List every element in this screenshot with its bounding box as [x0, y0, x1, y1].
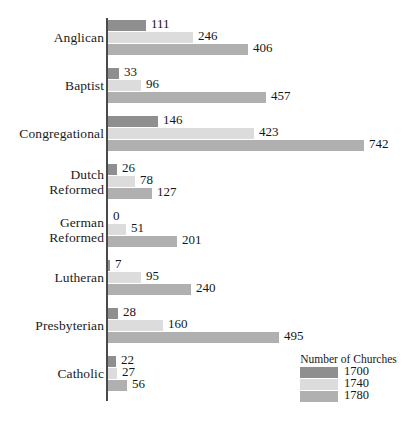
category-label: Baptist — [0, 79, 104, 94]
bar-row: 51 — [108, 224, 407, 235]
bar-value-label: 495 — [284, 329, 304, 342]
bar-1740 — [108, 128, 254, 139]
bar-1700 — [108, 260, 110, 271]
bar-1740 — [108, 224, 126, 235]
bar-group: Anglican111246406 — [0, 18, 407, 64]
category-label: Congregational — [0, 127, 104, 142]
bar-group: Baptist3396457 — [0, 66, 407, 112]
bar-row: 78 — [108, 176, 407, 187]
category-label-line: Lutheran — [0, 271, 104, 286]
bar-1780 — [108, 380, 127, 391]
bar-row: 240 — [108, 284, 407, 295]
category-label: GermanReformed — [0, 216, 104, 245]
bar-1700 — [108, 308, 118, 319]
bar-row: 495 — [108, 332, 407, 343]
bar-1700 — [108, 68, 119, 79]
bar-chart: Anglican111246406Baptist3396457Congregat… — [0, 0, 407, 425]
category-label: Lutheran — [0, 271, 104, 286]
category-label-line: Congregational — [0, 127, 104, 142]
category-label-line: German — [0, 216, 104, 231]
bar-1740 — [108, 272, 141, 283]
bar-1700 — [108, 356, 116, 367]
category-label-line: Presbyterian — [0, 319, 104, 334]
legend-entries: 170017401780 — [286, 367, 407, 402]
bar-value-label: 406 — [253, 41, 273, 54]
bar-value-label: 201 — [182, 233, 202, 246]
bar-row: 127 — [108, 188, 407, 199]
bar-value-label: 127 — [157, 185, 177, 198]
category-label-line: Baptist — [0, 79, 104, 94]
bar-1780 — [108, 236, 177, 247]
bar-row: 111 — [108, 20, 407, 31]
category-label-line: Catholic — [0, 367, 104, 382]
bar-row: 146 — [108, 116, 407, 127]
bar-value-label: 33 — [124, 65, 137, 78]
bar-1700 — [108, 20, 146, 31]
bar-value-label: 78 — [140, 173, 153, 186]
bar-row: 95 — [108, 272, 407, 283]
bar-row: 406 — [108, 44, 407, 55]
legend-swatch-1740 — [300, 379, 338, 390]
bar-group: GermanReformed051201 — [0, 210, 407, 256]
bar-row: 0 — [108, 212, 407, 223]
bar-value-label: 160 — [168, 317, 188, 330]
bar-row: 160 — [108, 320, 407, 331]
legend-swatch-1780 — [300, 391, 338, 402]
bar-1780 — [108, 140, 364, 151]
legend-label-1780: 1780 — [344, 389, 369, 402]
bar-group: DutchReformed2678127 — [0, 162, 407, 208]
bar-row: 28 — [108, 308, 407, 319]
bar-1740 — [108, 368, 117, 379]
bar-value-label: 95 — [146, 269, 159, 282]
category-label-line: Dutch — [0, 168, 104, 183]
bar-row: 201 — [108, 236, 407, 247]
bar-value-label: 96 — [146, 77, 159, 90]
bar-value-label: 240 — [196, 281, 216, 294]
bar-1780 — [108, 284, 191, 295]
legend-swatch-1700 — [300, 367, 338, 378]
bar-row: 423 — [108, 128, 407, 139]
bar-1740 — [108, 320, 163, 331]
category-label-line: Reformed — [0, 183, 104, 198]
bar-1780 — [108, 332, 279, 343]
category-label: Presbyterian — [0, 319, 104, 334]
bar-value-label: 26 — [122, 161, 135, 174]
bar-value-label: 111 — [151, 17, 170, 30]
bar-row: 96 — [108, 80, 407, 91]
bar-1780 — [108, 188, 152, 199]
bar-1780 — [108, 92, 266, 103]
bar-value-label: 457 — [271, 89, 291, 102]
bar-1780 — [108, 44, 248, 55]
category-label: DutchReformed — [0, 168, 104, 197]
bar-group: Presbyterian28160495 — [0, 306, 407, 352]
bar-value-label: 246 — [198, 29, 218, 42]
bar-row: 457 — [108, 92, 407, 103]
bar-value-label: 146 — [163, 113, 183, 126]
bar-value-label: 51 — [131, 221, 144, 234]
legend-entry: 1780 — [286, 391, 407, 402]
bar-group: Lutheran795240 — [0, 258, 407, 304]
bar-row: 742 — [108, 140, 407, 151]
bar-group: Congregational146423742 — [0, 114, 407, 160]
chart-legend: Number of Churches 170017401780 — [286, 353, 407, 403]
bar-value-label: 56 — [132, 377, 145, 390]
category-label-line: Reformed — [0, 231, 104, 246]
bar-value-label: 742 — [369, 137, 389, 150]
bar-value-label: 7 — [115, 257, 122, 270]
bar-1740 — [108, 176, 135, 187]
category-label: Anglican — [0, 31, 104, 46]
bar-1700 — [108, 116, 158, 127]
bar-1740 — [108, 32, 193, 43]
bar-value-label: 28 — [123, 305, 136, 318]
bar-value-label: 423 — [259, 125, 279, 138]
category-label: Catholic — [0, 367, 104, 382]
bar-1740 — [108, 80, 141, 91]
category-label-line: Anglican — [0, 31, 104, 46]
bar-value-label: 0 — [113, 209, 120, 222]
bar-1700 — [108, 164, 117, 175]
